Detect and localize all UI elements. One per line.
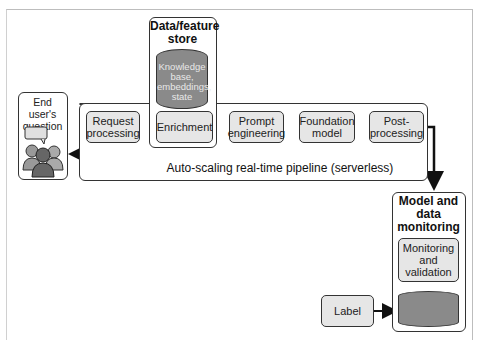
monitoring-validation-box: Monitoringandvalidation	[398, 238, 459, 282]
end-user-box: End user'squestion	[18, 92, 68, 180]
data-store-title: Data/featurestore	[150, 20, 215, 46]
model-data-monitoring: Model anddatamonitoring Monitoringandval…	[392, 192, 466, 332]
label-box: Label	[321, 295, 374, 327]
step-prompt-engineering: Promptengineering	[229, 111, 284, 143]
step-enrichment: Enrichment	[156, 111, 213, 143]
users-icon	[21, 125, 71, 185]
monitoring-title: Model anddatamonitoring	[393, 195, 464, 234]
monitoring-database-icon	[398, 291, 459, 327]
step-request-processing: Requestprocessing	[86, 111, 140, 143]
step-foundation-model: Foundationmodel	[299, 111, 355, 143]
step-post-processing: Post-processing	[369, 111, 424, 143]
database-icon: Knowledgebase,embeddings,state	[156, 49, 208, 109]
pipeline-caption: Auto-scaling real-time pipeline (serverl…	[130, 162, 430, 174]
